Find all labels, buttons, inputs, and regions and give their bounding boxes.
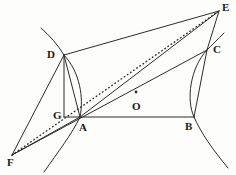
hyperbola-branch-lower-right xyxy=(194,117,228,168)
vertex-label-c: C xyxy=(213,44,221,55)
vertex-label-e: E xyxy=(222,2,229,13)
dotted-lines-group xyxy=(12,11,219,155)
segment-D-E xyxy=(64,11,219,55)
vertex-label-a: A xyxy=(79,122,87,133)
vertex-label-g: G xyxy=(53,110,62,121)
hyperbola-branch-lower-left xyxy=(44,117,80,172)
segment-C-B xyxy=(194,50,207,117)
segment-A-E xyxy=(80,11,219,117)
point-dot-o xyxy=(135,91,138,94)
vertex-label-o: O xyxy=(132,101,141,112)
segment-F-C xyxy=(12,50,207,155)
vertex-label-d: D xyxy=(47,49,55,60)
hyperbola-arc-right xyxy=(190,50,207,117)
geometry-figure: ABCDEFGO xyxy=(0,0,236,175)
segment-A-D-vertical xyxy=(64,55,80,117)
point-dots-group xyxy=(135,91,138,94)
figure-canvas xyxy=(0,0,236,175)
vertex-label-b: B xyxy=(185,121,192,132)
dotted-diagonal-F-E xyxy=(12,11,219,155)
vertex-label-f: F xyxy=(7,157,14,168)
